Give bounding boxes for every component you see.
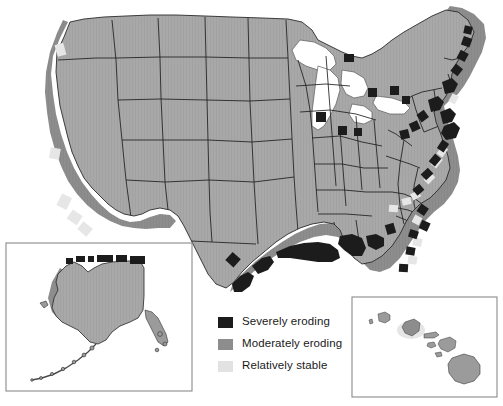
legend-swatch-severely-eroding [218,317,233,328]
coastal-erosion-map-figure: Severely eroding Moderately eroding Rela… [0,0,503,406]
legend-item-relatively-stable: Relatively stable [218,355,348,377]
legend-label-relatively-stable: Relatively stable [242,360,327,372]
hawaii-inset-border [352,297,497,397]
legend-item-moderately-eroding: Moderately eroding [218,333,348,355]
legend-item-severely-eroding: Severely eroding [218,311,348,333]
legend-label-moderately-eroding: Moderately eroding [242,338,342,350]
hawaii-inset-group [352,297,497,397]
legend-swatch-moderately-eroding [218,339,233,350]
alaska-inset-group [6,243,192,391]
legend-swatch-relatively-stable [218,361,233,372]
map-legend: Severely eroding Moderately eroding Rela… [218,311,348,377]
legend-label-severely-eroding: Severely eroding [242,316,330,328]
